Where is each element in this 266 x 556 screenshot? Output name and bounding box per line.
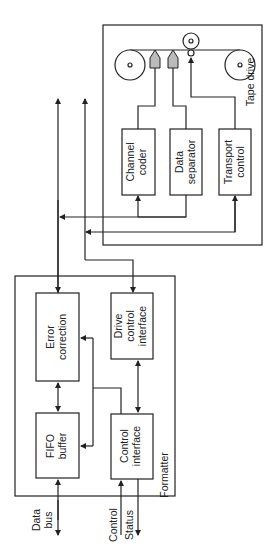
drive-control-interface-block: Drive control interface [111,293,153,359]
svg-text:coder: coder [136,148,148,175]
svg-text:interface: interface [130,426,142,466]
svg-text:Control: Control [118,429,130,463]
svg-text:Error: Error [44,325,56,349]
svg-text:control: control [234,146,246,178]
control-label: Control [107,508,119,542]
tape-drive-group: Channel coder Data separator Transport c… [103,25,262,245]
svg-text:Data: Data [173,151,185,173]
tape-drive-label: Tape drive [244,58,256,107]
svg-text:buffer: buffer [56,432,68,459]
supply-reel-icon [115,50,145,80]
status-label: Status [123,510,135,540]
svg-text:separator: separator [185,139,197,184]
svg-text:bus: bus [42,512,54,529]
transport-control-block: Transport control [219,129,251,195]
formatter-group: Error correction FIFO buffer Drive contr… [15,276,175,498]
svg-text:FIFO: FIFO [44,434,56,458]
svg-text:Channel: Channel [124,142,136,181]
control-interface-block: Control interface [111,414,153,479]
external-io: Data bus Control Status [30,479,138,542]
svg-text:correction: correction [56,314,68,360]
capstan-icon [183,33,199,49]
svg-text:control: control [124,310,136,342]
pinch-roller-icon [188,50,194,56]
svg-text:Drive: Drive [112,314,124,339]
channel-coder-block: Channel coder [122,129,155,195]
svg-text:Transport: Transport [222,140,234,185]
svg-text:interface: interface [136,306,148,346]
error-correction-block: Error correction [36,293,79,381]
block-diagram: Channel coder Data separator Transport c… [0,0,266,556]
data-bus-label: Data [30,509,42,531]
fifo-buffer-block: FIFO buffer [36,413,79,478]
formatter-label: Formatter [158,452,170,498]
data-separator-block: Data separator [170,129,202,195]
